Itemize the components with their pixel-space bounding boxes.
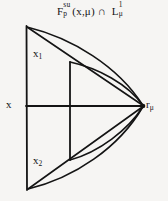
figure-title: Fsup(x,μ) ∩ L1μ [57, 4, 125, 17]
label-x1: x1 [33, 48, 42, 61]
title-argument: (x,μ) [72, 5, 94, 17]
right-vertex-point [141, 104, 146, 109]
label-x2: x2 [33, 155, 42, 168]
title-second-base: L [112, 5, 119, 17]
title-second-subscript: μ [119, 10, 123, 18]
title-script-stack: sup [63, 4, 72, 15]
title-second-superscript: 1 [119, 1, 123, 9]
title-subscript: p [63, 10, 67, 18]
label-r-mu: rμ [146, 99, 154, 112]
label-x-text: x [6, 98, 12, 110]
diagram-canvas [0, 0, 168, 201]
label-x: x [6, 99, 12, 110]
title-second-script-stack: 1μ [119, 4, 125, 15]
figure-container: Fsup(x,μ) ∩ L1μ x x1 x2 rμ [0, 0, 168, 201]
label-x1-subscript: 1 [39, 52, 43, 61]
left-vertical-segment [27, 26, 28, 190]
label-r-subscript: μ [150, 103, 154, 112]
title-superscript: su [63, 1, 70, 9]
lower-chord [28, 107, 143, 190]
label-x2-subscript: 2 [39, 159, 43, 168]
intersection-operator: ∩ [98, 5, 106, 17]
